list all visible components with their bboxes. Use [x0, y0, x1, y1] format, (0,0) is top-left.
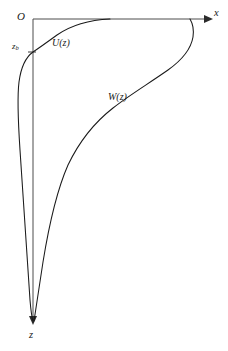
w-curve-label: W(z) [108, 92, 127, 102]
u-curve-label: U(z) [52, 38, 70, 48]
figure-canvas [0, 0, 228, 351]
w-curve-path [34, 19, 193, 321]
u-curve-path [18, 19, 110, 321]
z-b-subscript: b [16, 44, 19, 51]
x-axis-label: x [214, 8, 219, 19]
origin-label: O [17, 11, 25, 22]
z-b-marker-label: zb [12, 42, 19, 52]
figure-container: O x z zb U(z) W(z) [0, 0, 228, 351]
z-axis-label: z [29, 330, 33, 341]
x-axis-arrowhead [204, 15, 213, 23]
